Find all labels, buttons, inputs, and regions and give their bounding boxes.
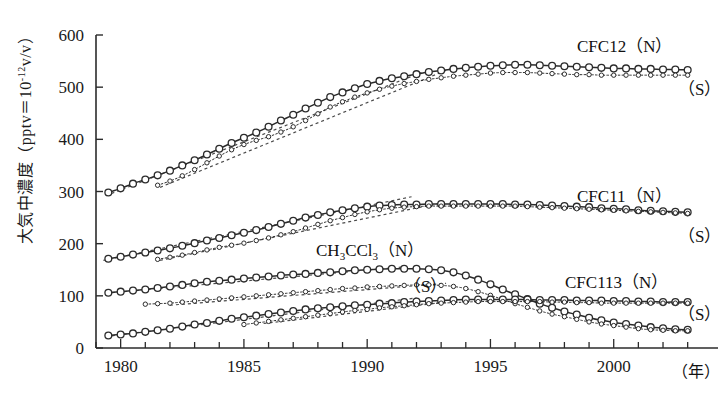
series-marker	[340, 215, 344, 219]
series-marker	[549, 304, 556, 311]
series-marker	[673, 329, 677, 333]
series-marker	[191, 280, 198, 287]
series-marker	[575, 72, 579, 76]
series-label-ch3ccl3-north-tag: （N）	[378, 241, 424, 260]
series-marker	[661, 210, 665, 214]
series-marker	[575, 207, 579, 211]
series-marker	[413, 71, 420, 78]
series-marker	[550, 205, 554, 209]
x-tick-label: 1985	[227, 357, 261, 376]
series-marker	[464, 204, 468, 208]
series-marker	[487, 62, 494, 69]
series-marker	[402, 205, 406, 209]
series-marker	[142, 328, 149, 335]
series-marker	[303, 226, 307, 230]
series-label-cfc12-south-tag: （S）	[678, 80, 721, 99]
series-marker	[191, 157, 198, 164]
series-marker	[685, 211, 689, 215]
series-marker	[390, 84, 394, 88]
series-marker	[228, 140, 235, 147]
series-marker	[217, 245, 221, 249]
series-marker	[316, 112, 320, 116]
series-marker	[599, 73, 603, 77]
series-marker	[105, 189, 112, 196]
series-marker	[191, 321, 198, 328]
series-marker	[327, 209, 334, 216]
series-marker	[673, 211, 677, 215]
series-marker	[636, 301, 640, 305]
y-tick-label: 200	[59, 235, 85, 254]
series-marker	[377, 306, 381, 310]
series-marker	[451, 284, 455, 288]
series-marker	[154, 327, 161, 334]
series-marker	[524, 61, 531, 68]
series-marker	[648, 301, 652, 305]
series-marker	[388, 265, 395, 272]
series-marker	[130, 251, 137, 258]
series-marker	[279, 318, 283, 322]
series-marker	[117, 185, 124, 192]
series-marker	[660, 66, 667, 73]
series-marker	[525, 70, 529, 74]
series-marker	[303, 118, 307, 122]
series-marker	[339, 268, 346, 275]
series-marker	[130, 330, 137, 337]
series-marker	[229, 243, 233, 247]
series-marker	[636, 209, 640, 213]
series-marker	[364, 81, 371, 88]
series-marker	[599, 208, 603, 212]
series-marker	[624, 325, 628, 329]
series-marker	[279, 233, 283, 237]
series-marker	[117, 288, 124, 295]
series-marker	[673, 301, 677, 305]
series-marker	[499, 62, 506, 69]
series-marker	[254, 238, 258, 242]
series-marker	[525, 204, 529, 208]
series-marker	[673, 73, 677, 77]
series-marker	[291, 316, 295, 320]
trend-line-layer	[103, 68, 451, 336]
series-marker	[365, 210, 369, 214]
series-marker	[253, 312, 260, 319]
series-marker	[192, 250, 196, 254]
series-marker	[117, 253, 124, 260]
series-marker	[550, 71, 554, 75]
series-marker	[217, 297, 221, 301]
y-tick-label: 500	[59, 78, 85, 97]
series-marker	[241, 314, 248, 321]
series-marker	[587, 300, 591, 304]
series-marker	[427, 204, 431, 208]
series-marker	[353, 212, 357, 216]
series-marker	[587, 72, 591, 76]
series-marker	[254, 294, 258, 298]
series-marker	[266, 293, 270, 297]
series-marker	[390, 206, 394, 210]
series-marker	[327, 94, 334, 101]
series-marker	[229, 296, 233, 300]
series-marker	[155, 257, 159, 261]
series-marker	[314, 99, 321, 106]
series-marker	[303, 289, 307, 293]
series-marker	[204, 237, 211, 244]
series-marker	[339, 89, 346, 96]
series-marker	[168, 179, 172, 183]
series-marker	[302, 306, 309, 313]
series-marker	[464, 286, 468, 290]
series-marker	[365, 91, 369, 95]
series-marker	[130, 287, 137, 294]
series-marker	[105, 332, 112, 339]
series-marker	[353, 95, 357, 99]
series-marker	[204, 151, 211, 158]
series-marker	[599, 322, 603, 326]
series-marker	[328, 105, 332, 109]
x-tick-label: 1990	[350, 357, 384, 376]
series-marker	[513, 70, 517, 74]
series-marker	[439, 76, 443, 80]
series-marker	[192, 167, 196, 171]
series-marker	[291, 229, 295, 233]
series-marker	[167, 283, 174, 290]
series-marker	[661, 301, 665, 305]
series-marker	[538, 205, 542, 209]
series-marker	[487, 281, 494, 288]
series-marker	[513, 204, 517, 208]
